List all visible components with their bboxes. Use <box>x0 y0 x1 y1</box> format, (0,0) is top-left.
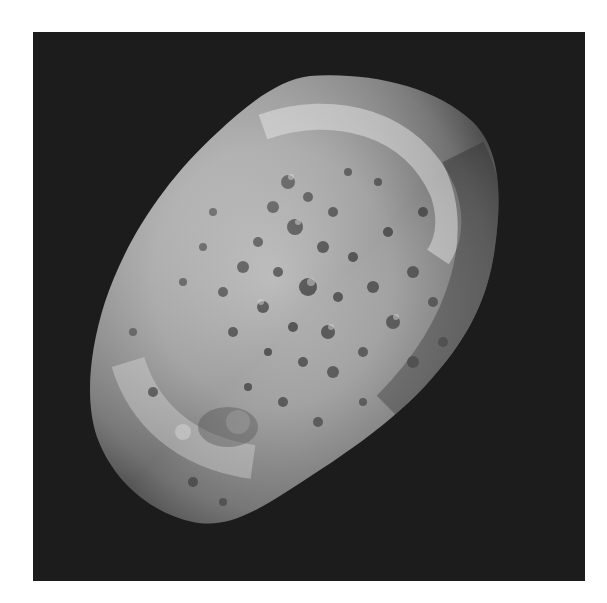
photo-frame <box>33 32 585 581</box>
moon-body <box>33 32 585 581</box>
moon-illustration <box>33 32 585 581</box>
